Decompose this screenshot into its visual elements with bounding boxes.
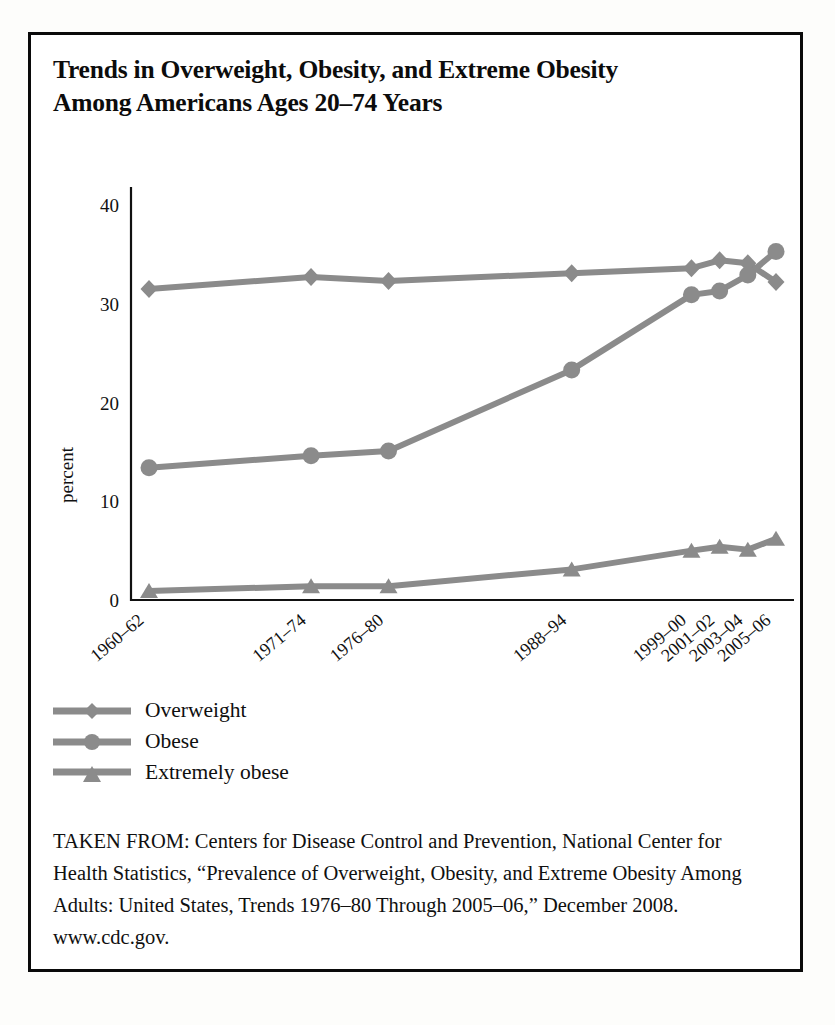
figure-title-line-1: Trends in Overweight, Obesity, and Extre…	[53, 53, 753, 86]
series-extremely-obese	[140, 531, 785, 598]
legend-swatch-circle-icon	[53, 731, 131, 753]
y-tick-label: 40	[100, 195, 119, 216]
page-canvas: Trends in Overweight, Obesity, and Extre…	[0, 0, 835, 1025]
chart-legend: Overweight Obese Extremely obese	[53, 695, 473, 788]
y-axis-title: percent	[56, 446, 77, 503]
data-point-diamond-marker	[303, 268, 320, 286]
data-point-circle-marker	[141, 459, 158, 476]
x-tick-label: 1976–80	[326, 610, 387, 666]
legend-item-extremely-obese: Extremely obese	[53, 757, 473, 788]
data-series-group	[140, 243, 785, 598]
series-line-path	[149, 260, 776, 289]
figure-frame: Trends in Overweight, Obesity, and Extre…	[28, 32, 803, 972]
data-point-circle-marker	[380, 442, 397, 459]
data-point-diamond-marker	[141, 280, 158, 298]
data-point-circle-marker	[711, 282, 728, 299]
data-point-circle-marker	[563, 361, 580, 378]
x-tick-label: 1988–94	[509, 610, 570, 666]
data-point-diamond-marker	[683, 259, 700, 277]
source-note: TAKEN FROM: Centers for Disease Control …	[53, 825, 768, 953]
chart-svg: 010203040 percent 1960–621971–741976–801…	[31, 145, 800, 705]
data-point-circle-marker	[768, 243, 785, 260]
data-point-diamond-marker	[711, 251, 728, 269]
y-tick-label: 20	[100, 393, 119, 414]
x-tick-label: 1960–62	[86, 610, 147, 666]
legend-label-obese: Obese	[145, 729, 199, 754]
data-point-circle-marker	[739, 267, 756, 284]
figure-title: Trends in Overweight, Obesity, and Extre…	[53, 53, 753, 119]
legend-item-overweight: Overweight	[53, 695, 473, 726]
y-tick-label: 30	[100, 294, 119, 315]
data-point-diamond-marker	[380, 272, 397, 290]
y-axis-tick-labels: 010203040	[100, 195, 119, 611]
data-point-diamond-marker	[563, 264, 580, 282]
line-chart: 010203040 percent 1960–621971–741976–801…	[31, 145, 800, 705]
legend-item-obese: Obese	[53, 726, 473, 757]
legend-label-extremely-obese: Extremely obese	[145, 760, 289, 785]
y-axis-title-text: percent	[56, 446, 77, 503]
figure-title-line-2: Among Americans Ages 20–74 Years	[53, 86, 753, 119]
legend-swatch-diamond-icon	[53, 700, 131, 722]
data-point-circle-marker	[303, 447, 320, 464]
axis-lines	[131, 187, 794, 600]
series-line-path	[149, 539, 776, 591]
x-tick-label: 1971–74	[248, 610, 309, 666]
legend-label-overweight: Overweight	[145, 698, 247, 723]
data-point-circle-marker	[683, 286, 700, 303]
y-tick-label: 0	[110, 590, 120, 611]
y-tick-label: 10	[100, 491, 119, 512]
legend-swatch-triangle-icon	[53, 762, 131, 784]
x-axis-tick-labels: 1960–621971–741976–801988–941999–002001–…	[86, 610, 774, 666]
